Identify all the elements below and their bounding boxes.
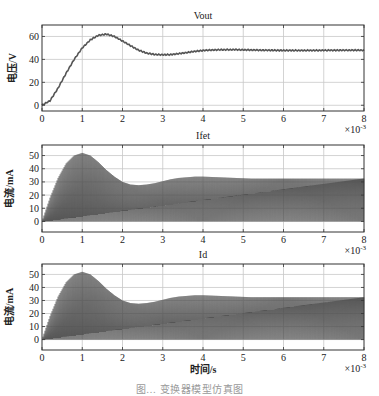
y-tick-label: 10	[29, 203, 39, 214]
y-tick-label: 50	[29, 269, 39, 280]
subplot-title: Ifet	[196, 130, 210, 141]
y-axis-label: 电流/mA	[3, 287, 15, 326]
x-tick-label: 6	[281, 352, 286, 363]
x-tick-label: 7	[321, 234, 326, 245]
x-tick-label: 5	[241, 113, 246, 124]
y-tick-label: 40	[29, 163, 39, 174]
x-scale-multiplier: ×10-3	[345, 123, 367, 135]
x-tick-label: 2	[120, 113, 125, 124]
subplot-id: 01234567801020304050Id电流/mA×10-3	[3, 249, 367, 374]
x-tick-label: 6	[281, 234, 286, 245]
x-tick-label: 3	[160, 352, 165, 363]
grid-lines	[42, 25, 364, 111]
x-scale-multiplier: ×10-3	[345, 362, 367, 374]
x-tick-label: 3	[160, 234, 165, 245]
x-tick-label: 2	[120, 352, 125, 363]
x-tick-label: 7	[321, 352, 326, 363]
y-tick-label: 30	[29, 176, 39, 187]
x-tick-label: 0	[40, 113, 45, 124]
y-tick-label: 0	[34, 216, 39, 227]
x-tick-label: 4	[201, 352, 206, 363]
subplot-vout: 0123456780204060Vout电压/V×10-3	[6, 10, 367, 135]
y-axis-label: 电流/mA	[3, 169, 15, 208]
subplot-title: Id	[199, 249, 207, 260]
y-tick-label: 0	[34, 334, 39, 345]
x-tick-label: 6	[281, 113, 286, 124]
y-tick-label: 0	[34, 100, 39, 111]
y-axis-label: 电压/V	[6, 52, 18, 83]
subplot-title: Vout	[194, 10, 213, 21]
x-tick-label: 1	[80, 352, 85, 363]
x-axis-label: 时间/s	[190, 363, 217, 375]
y-tick-label: 60	[29, 31, 39, 42]
x-tick-label: 0	[40, 352, 45, 363]
y-tick-label: 10	[29, 321, 39, 332]
y-tick-label: 50	[29, 150, 39, 161]
x-tick-label: 7	[321, 113, 326, 124]
y-tick-label: 20	[29, 190, 39, 201]
y-tick-label: 40	[29, 282, 39, 293]
x-tick-label: 4	[201, 234, 206, 245]
x-tick-label: 4	[201, 113, 206, 124]
y-tick-label: 30	[29, 295, 39, 306]
figure-caption: 图… 变换器模型仿真图	[0, 381, 379, 396]
x-tick-label: 2	[120, 234, 125, 245]
x-tick-label: 0	[40, 234, 45, 245]
y-tick-label: 20	[29, 308, 39, 319]
x-tick-label: 3	[160, 113, 165, 124]
x-tick-label: 1	[80, 234, 85, 245]
x-scale-multiplier: ×10-3	[345, 244, 367, 256]
x-tick-label: 5	[241, 234, 246, 245]
x-tick-label: 1	[80, 113, 85, 124]
y-tick-label: 20	[29, 77, 39, 88]
y-tick-label: 40	[29, 54, 39, 65]
x-tick-label: 5	[241, 352, 246, 363]
simulation-figure: 0123456780204060Vout电压/V×10-301234567801…	[0, 0, 379, 396]
subplot-ifet: 01234567801020304050Ifet电流/mA×10-3	[3, 130, 367, 256]
